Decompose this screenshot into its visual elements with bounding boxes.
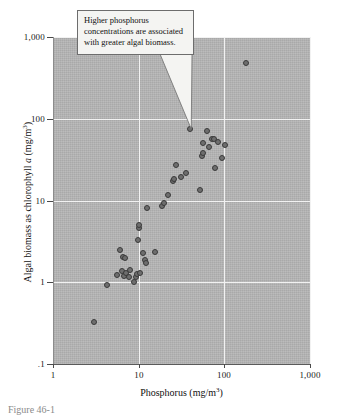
- x-axis-label-text: Phosphorus (mg/m: [140, 387, 216, 398]
- data-point: [187, 126, 193, 132]
- y-axis-label-italic: a: [22, 158, 33, 163]
- data-point: [161, 200, 167, 206]
- x-axis-tick-label: 10: [134, 370, 143, 380]
- x-axis-tick: [224, 364, 225, 368]
- data-point: [183, 170, 189, 176]
- y-axis-tick: [47, 201, 53, 202]
- x-axis-tick-label: 1: [51, 370, 56, 380]
- y-axis-label-tail: ): [22, 122, 33, 125]
- data-point: [206, 144, 212, 150]
- data-point: [204, 128, 210, 134]
- gridline-horizontal: [53, 119, 310, 120]
- data-point: [104, 282, 110, 288]
- y-axis-line: [53, 37, 54, 365]
- annotation-callout: Higher phosphorus concentrations are ass…: [77, 10, 194, 55]
- y-axis-label-exponent: 3: [21, 125, 29, 129]
- y-axis-label-text: Algal biomass as chlorophyll: [22, 163, 33, 282]
- data-point: [215, 139, 221, 145]
- y-axis-label-mid: (mg/m: [22, 129, 33, 158]
- data-point: [173, 162, 179, 168]
- data-point: [122, 255, 128, 261]
- y-axis-label: Algal biomass as chlorophyll a (mg/m3): [21, 47, 33, 357]
- gridline-horizontal: [53, 201, 310, 202]
- data-point: [243, 60, 249, 66]
- figure-caption: Figure 46-1: [8, 404, 55, 415]
- data-point: [137, 270, 143, 276]
- x-axis-tick: [139, 364, 140, 368]
- plot-area: [53, 37, 310, 364]
- x-axis-tick: [53, 364, 54, 368]
- y-axis-tick: [47, 364, 53, 365]
- y-axis-tick: [47, 37, 53, 38]
- data-point: [200, 150, 206, 156]
- data-point: [222, 142, 228, 148]
- data-point: [143, 260, 149, 266]
- x-axis-tick: [310, 364, 311, 368]
- y-axis-tick: [47, 282, 53, 283]
- data-point: [117, 247, 123, 253]
- annotation-callout-text: Higher phosphorus concentrations are ass…: [84, 15, 183, 47]
- x-axis-tick-label: 100: [217, 370, 231, 380]
- data-point: [197, 187, 203, 193]
- x-axis-line: [53, 364, 311, 365]
- gridline-horizontal: [53, 282, 310, 283]
- y-axis-tick-label: 1,000: [24, 32, 45, 42]
- y-axis-tick-label: .1: [38, 359, 45, 369]
- x-axis-label-tail: ): [220, 387, 223, 398]
- data-point: [165, 192, 171, 198]
- data-point: [212, 165, 218, 171]
- data-point: [140, 250, 146, 256]
- y-axis-tick: [47, 119, 53, 120]
- gridline-vertical: [310, 37, 311, 364]
- y-axis-tick-label: 1: [40, 277, 45, 287]
- data-point: [135, 237, 141, 243]
- y-axis-tick-label: 10: [36, 196, 45, 206]
- data-point: [171, 176, 177, 182]
- data-point: [152, 249, 158, 255]
- x-axis-tick-label: 1,000: [299, 370, 320, 380]
- x-axis-label: Phosphorus (mg/m3): [53, 386, 310, 398]
- data-point: [127, 267, 133, 273]
- data-point: [144, 205, 150, 211]
- figure-scatter-phosphorus-algal-biomass: 1101001,000.11101001,000 Phosphorus (mg/…: [0, 0, 337, 420]
- data-point: [91, 319, 97, 325]
